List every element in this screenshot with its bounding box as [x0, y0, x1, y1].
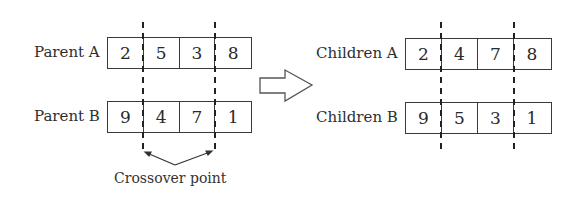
diagram-overlay [0, 0, 583, 197]
crossover-pointer-icon [145, 151, 212, 165]
right-arrow-icon [260, 70, 312, 101]
